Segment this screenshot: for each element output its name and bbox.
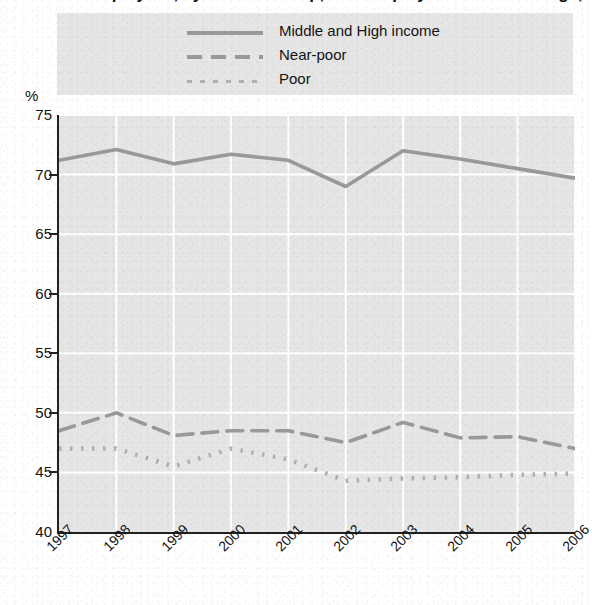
y-axis-tick-label: 55 xyxy=(12,344,52,361)
series-line xyxy=(59,449,575,481)
legend-label: Near-poor xyxy=(279,46,347,63)
y-axis-tick-label: 65 xyxy=(12,225,52,242)
series-line xyxy=(59,150,575,187)
chart-canvas xyxy=(59,115,575,532)
figure-title: Percent of Employees, by Income Group, w… xyxy=(0,0,589,6)
y-axis-tick-label: 45 xyxy=(12,463,52,480)
legend-item-near-poor: Near-poor xyxy=(57,45,573,67)
legend-swatch-dashed-icon xyxy=(187,55,263,59)
chart-legend: Middle and High income Near-poor Poor xyxy=(57,13,573,95)
y-axis-tick-mark xyxy=(49,174,57,176)
y-axis-tick-mark xyxy=(49,412,57,414)
y-axis-tick-mark xyxy=(49,293,57,295)
legend-swatch-solid-icon xyxy=(187,31,263,35)
legend-label: Poor xyxy=(279,70,311,87)
y-axis-tick-label: 50 xyxy=(12,404,52,421)
legend-label: Middle and High income xyxy=(279,22,440,39)
legend-item-middle-and-high-income: Middle and High income xyxy=(57,21,573,43)
y-axis-tick-label: 75 xyxy=(12,106,52,123)
series-layer xyxy=(59,150,575,481)
y-axis-tick-mark xyxy=(49,233,57,235)
y-axis-tick-mark xyxy=(49,471,57,473)
series-line xyxy=(59,413,575,449)
y-axis-tick-label: 70 xyxy=(12,166,52,183)
y-axis: 7570656055504540 xyxy=(0,100,52,560)
legend-item-poor: Poor xyxy=(57,69,573,91)
legend-swatch-dotted-icon xyxy=(187,80,263,83)
y-axis-tick-label: 60 xyxy=(12,285,52,302)
y-axis-tick-mark xyxy=(49,352,57,354)
plot-area xyxy=(57,115,575,534)
y-axis-tick-label: 40 xyxy=(12,523,52,540)
